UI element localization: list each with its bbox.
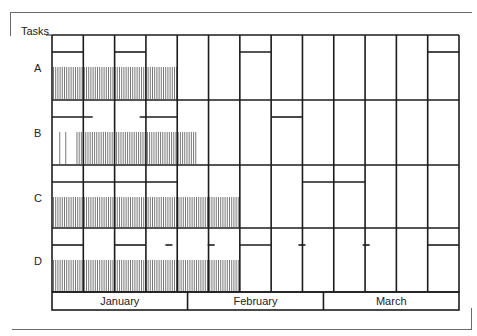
month-label-march: March (376, 295, 407, 307)
month-label-january: January (100, 295, 140, 307)
month-label-february: February (233, 295, 278, 307)
gantt-chart: JanuaryFebruaryMarch (0, 0, 477, 336)
